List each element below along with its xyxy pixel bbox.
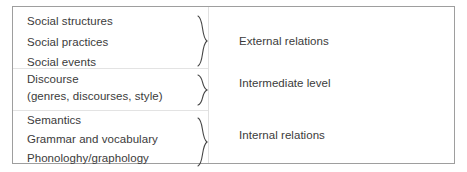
curly-brace-icon [195,15,211,67]
group-internal-relations: Semantics Grammar and vocabulary Phonolo… [13,111,208,165]
list-item: Phonologhy/graphology [27,152,149,165]
list-item: Social practices [27,36,108,49]
list-item: Social structures [27,15,113,28]
framework-diagram: Social structures Social practices Socia… [12,6,455,164]
curly-brace-icon [195,117,211,167]
items-column: Social structures Social practices Socia… [13,7,209,163]
relation-label-intermediate: Intermediate level [239,77,331,90]
group-external-relations: Social structures Social practices Socia… [13,7,208,69]
list-item-subtitle: (genres, discourses, style) [27,90,163,103]
relation-label-internal: Internal relations [239,129,325,142]
list-item: Semantics [27,114,81,127]
list-item: Discourse [27,73,79,86]
list-item: Grammar and vocabulary [27,133,158,146]
curly-brace-icon [195,74,211,106]
list-item: Social events [27,56,96,69]
group-intermediate-level: Discourse (genres, discourses, style) [13,69,208,111]
relation-label-external: External relations [239,35,329,48]
